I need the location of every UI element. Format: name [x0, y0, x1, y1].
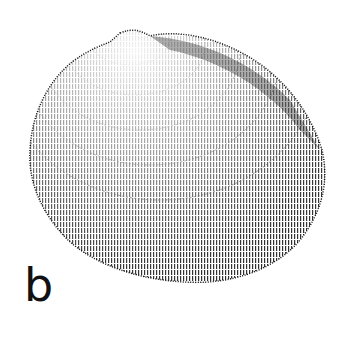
- panel-label: b: [24, 262, 53, 308]
